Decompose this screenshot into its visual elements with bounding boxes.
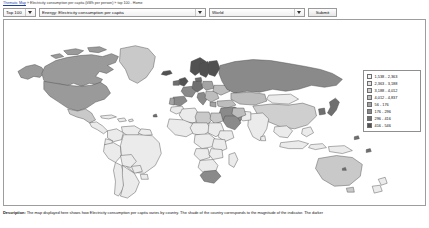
chevron-down-icon bbox=[294, 9, 303, 16]
country-korea bbox=[319, 108, 326, 115]
chevron-down-icon bbox=[25, 9, 34, 16]
country-canada-arctic-2 bbox=[88, 47, 107, 53]
country-new-zealand-n bbox=[378, 177, 387, 185]
rank-select-value: Top 100 bbox=[6, 8, 25, 17]
country-alaska bbox=[18, 65, 45, 80]
region-select[interactable]: World bbox=[209, 8, 305, 17]
country-canada bbox=[42, 54, 119, 87]
legend-row: 2,363 - 3,188 bbox=[367, 80, 418, 87]
legend-swatch bbox=[367, 109, 372, 114]
rank-select[interactable]: Top 100 bbox=[3, 8, 36, 17]
country-spain bbox=[172, 96, 187, 106]
legend-row: 3,188 - 4,012 bbox=[367, 87, 418, 94]
legend-label: 56 - 176 bbox=[375, 101, 389, 108]
country-uk bbox=[179, 77, 188, 86]
world-map[interactable] bbox=[4, 20, 425, 205]
island-pacific-2 bbox=[366, 149, 371, 153]
country-new-guinea bbox=[328, 146, 352, 154]
indicator-select-value: Energy: Electricity consumption per capi… bbox=[42, 8, 195, 17]
country-finland bbox=[208, 61, 220, 77]
country-portugal bbox=[169, 98, 174, 105]
legend-swatch bbox=[367, 95, 372, 100]
legend-label: 3,188 - 4,012 bbox=[375, 87, 398, 94]
country-egypt bbox=[210, 113, 223, 124]
map-description: Description: The map displayed here show… bbox=[0, 206, 429, 216]
legend-label: 296 - 416 bbox=[375, 115, 391, 122]
breadcrumb-tail: top 100 - Home bbox=[117, 1, 142, 5]
legend-swatch bbox=[367, 116, 372, 121]
country-south-africa bbox=[200, 170, 221, 183]
submit-button[interactable]: Submit bbox=[308, 8, 337, 17]
country-poland bbox=[202, 81, 214, 90]
country-mongolia bbox=[267, 94, 299, 104]
country-hispaniola bbox=[117, 118, 126, 122]
legend-label: 2,363 - 3,188 bbox=[375, 80, 398, 87]
legend-row: 296 - 416 bbox=[367, 115, 418, 122]
legend-label: 416 - 546 bbox=[375, 122, 391, 129]
legend-row: 56 - 176 bbox=[367, 101, 418, 108]
map-legend: 1,538 - 2,363 2,363 - 3,188 3,188 - 4,01… bbox=[363, 70, 421, 132]
description-label: Description: bbox=[3, 210, 26, 215]
country-indonesia-2 bbox=[309, 144, 327, 150]
legend-row: 176 - 296 bbox=[367, 108, 418, 115]
legend-label: 176 - 296 bbox=[375, 108, 391, 115]
country-madagascar bbox=[229, 153, 238, 168]
description-text: The map displayed here shows how Electri… bbox=[27, 210, 323, 215]
country-usa bbox=[44, 81, 111, 111]
country-australia bbox=[316, 156, 363, 187]
legend-swatch bbox=[367, 102, 372, 107]
island-atlantic-1 bbox=[153, 114, 157, 117]
country-russia bbox=[219, 60, 342, 94]
chevron-down-icon bbox=[195, 9, 204, 16]
country-venezuela bbox=[121, 126, 141, 136]
country-tanzania bbox=[209, 149, 223, 160]
country-turkey bbox=[217, 100, 236, 108]
country-uruguay bbox=[140, 174, 148, 179]
legend-swatch bbox=[367, 81, 372, 86]
country-greece bbox=[210, 102, 216, 107]
legend-row: 1,538 - 2,363 bbox=[367, 73, 418, 80]
map-panel[interactable]: 1,538 - 2,363 2,363 - 3,188 3,188 - 4,01… bbox=[3, 19, 426, 206]
region-select-value: World bbox=[212, 8, 294, 17]
country-canada-arctic-1 bbox=[64, 49, 84, 55]
legend-label: 1,538 - 2,363 bbox=[375, 73, 398, 80]
legend-swatch bbox=[367, 123, 372, 128]
country-tasmania bbox=[346, 187, 354, 192]
country-philippines bbox=[302, 127, 314, 137]
legend-label: 4,012 - 4,837 bbox=[375, 94, 398, 101]
country-mexico bbox=[68, 109, 96, 123]
country-puerto-rico bbox=[128, 119, 133, 122]
country-cuba bbox=[101, 115, 117, 119]
legend-swatch bbox=[367, 88, 372, 93]
country-peru bbox=[104, 143, 122, 163]
indicator-select[interactable]: Energy: Electricity consumption per capi… bbox=[39, 8, 206, 17]
country-kazakhstan bbox=[231, 92, 267, 105]
legend-row: 416 - 546 bbox=[367, 122, 418, 129]
country-japan bbox=[327, 98, 339, 116]
country-central-america bbox=[90, 122, 108, 134]
island-sri-lanka bbox=[261, 136, 266, 141]
island-pacific-1 bbox=[354, 136, 359, 140]
country-iceland bbox=[161, 70, 172, 75]
country-indonesia-1 bbox=[280, 141, 309, 149]
legend-row: 4,012 - 4,837 bbox=[367, 94, 418, 101]
country-greenland bbox=[119, 46, 155, 84]
legend-swatch bbox=[367, 74, 372, 79]
breadcrumb-current: Electricity consumption per capita (kWh … bbox=[30, 1, 113, 5]
country-angola bbox=[194, 149, 210, 161]
toolbar: Top 100 Energy: Electricity consumption … bbox=[0, 6, 429, 17]
country-canada-arctic-3 bbox=[51, 54, 64, 59]
country-new-zealand-s bbox=[372, 185, 382, 193]
country-ireland bbox=[173, 80, 179, 85]
breadcrumb-home-link[interactable]: Thematic Map bbox=[3, 1, 26, 5]
